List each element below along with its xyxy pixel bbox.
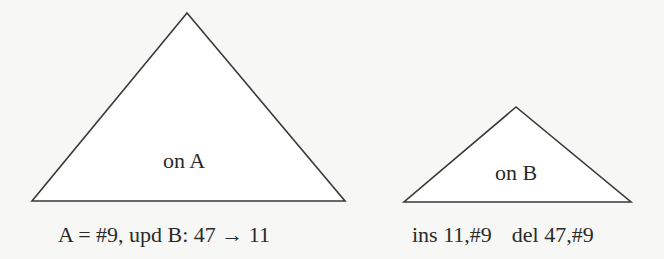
triangle-b-label: on B (495, 162, 537, 184)
triangle-b (404, 107, 631, 202)
diagram: on A on B A = #9, upd B: 47 → 11 ins 11,… (0, 0, 664, 259)
triangle-b-caption: ins 11,#9del 47,#9 (412, 224, 594, 246)
diagram-canvas (0, 0, 664, 259)
delete-operation: del 47,#9 (512, 222, 594, 247)
insert-operation: ins 11,#9 (412, 222, 492, 247)
triangle-a-label: on A (163, 150, 205, 172)
triangle-a-caption: A = #9, upd B: 47 → 11 (58, 224, 270, 246)
